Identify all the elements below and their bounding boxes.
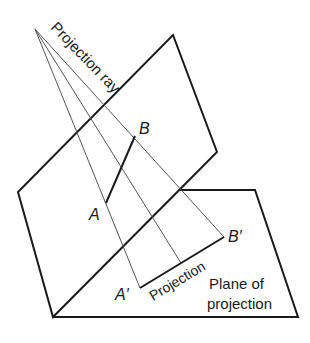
- point-b-label: B: [139, 120, 150, 137]
- point-a-label: A: [88, 206, 100, 223]
- segment-ab: [106, 136, 135, 203]
- projection-ray-mid: [35, 29, 181, 263]
- plane-label-line1: Plane of: [209, 275, 265, 292]
- diagram-canvas: Projection ray B A A′ B′ Projection Plan…: [0, 0, 310, 343]
- projection-ray-b: [35, 29, 224, 237]
- point-b-prime-label: B′: [228, 228, 243, 245]
- point-a-prime-label: A′: [114, 286, 130, 303]
- projection-diagram: Projection ray B A A′ B′ Projection Plan…: [0, 0, 310, 343]
- plane-label-line2: projection: [207, 295, 272, 312]
